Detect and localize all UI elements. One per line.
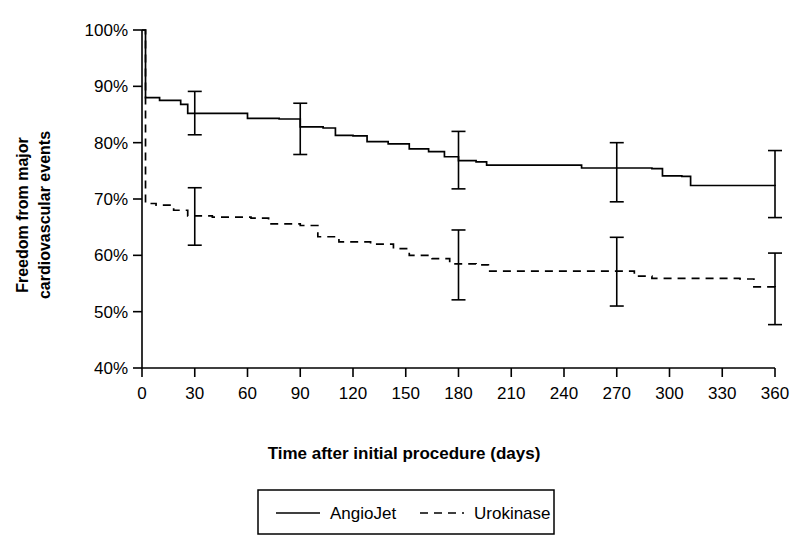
x-tick-label: 360 [761, 384, 789, 403]
legend-label-angiojet: AngioJet [330, 504, 396, 523]
legend-label-urokinase: Urokinase [474, 504, 551, 523]
y-tick-label: 90% [94, 77, 128, 96]
chart-figure: 40%50%60%70%80%90%100%030609012015018021… [0, 0, 812, 557]
x-tick-label: 210 [497, 384, 525, 403]
x-tick-label: 30 [185, 384, 204, 403]
axis-lines [142, 30, 775, 368]
x-tick-label: 270 [603, 384, 631, 403]
x-tick-label: 0 [137, 384, 146, 403]
y-axis-title-line1: Freedom from major [14, 137, 31, 293]
y-tick-label: 70% [94, 190, 128, 209]
y-axis-title-line2: cardiovascular events [36, 131, 53, 299]
x-tick-label: 180 [444, 384, 472, 403]
x-tick-label: 150 [392, 384, 420, 403]
y-tick-label: 80% [94, 134, 128, 153]
y-tick-label: 40% [94, 359, 128, 378]
x-tick-label: 60 [238, 384, 257, 403]
y-tick-label: 60% [94, 246, 128, 265]
x-tick-label: 120 [339, 384, 367, 403]
kaplan-meier-chart: 40%50%60%70%80%90%100%030609012015018021… [0, 0, 812, 557]
x-tick-label: 330 [708, 384, 736, 403]
x-tick-label: 90 [291, 384, 310, 403]
y-tick-label: 50% [94, 303, 128, 322]
y-tick-label: 100% [85, 21, 128, 40]
x-axis-title: Time after initial procedure (days) [268, 444, 541, 463]
x-tick-label: 240 [550, 384, 578, 403]
x-tick-label: 300 [655, 384, 683, 403]
